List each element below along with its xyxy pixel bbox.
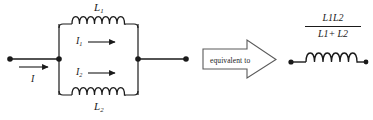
equivalent-to-label: equivalent to [210, 56, 250, 65]
top-branch-wire [59, 24, 138, 28]
fraction-denominator: L1+ L2 [305, 28, 361, 41]
eq-left-terminal-dot [288, 59, 293, 64]
label-L1: L1 [94, 2, 104, 13]
input-terminal-dot [7, 56, 13, 62]
label-I-total: I [31, 74, 34, 84]
output-terminal-dot [183, 56, 189, 62]
figure-canvas: L1 L2 I1 I2 I equivalent to L1L2 L1+ L2 [0, 0, 373, 120]
bottom-branch-wire [59, 91, 138, 95]
equivalent-inductance-value: L1L2 L1+ L2 [305, 12, 361, 40]
label-I2: I2 [76, 67, 82, 77]
label-I1: I1 [76, 36, 82, 46]
fraction-numerator: L1L2 [305, 12, 361, 25]
inductor-L1-coil [72, 17, 126, 25]
fraction-bar [305, 26, 361, 27]
label-L2: L2 [94, 101, 104, 112]
eq-right-terminal-dot [364, 60, 369, 65]
inductor-L2-coil [72, 88, 126, 96]
eq-inductor-coil [306, 53, 358, 62]
